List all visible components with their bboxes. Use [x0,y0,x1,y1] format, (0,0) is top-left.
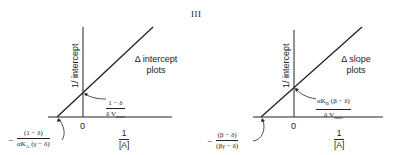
left-x-axis-den: [A] [119,141,129,150]
right-x-axis-label: 1 [A] [334,122,344,150]
left-x-intercept-den-tail: (γ − δ) [29,140,49,148]
right-x-intercept-arrow [253,120,264,141]
right-x-axis-den: [A] [334,141,344,150]
left-x-intercept-num: (1 − δ) [23,129,44,137]
right-x-intercept-num: (β − δ) [217,131,238,139]
left-x-axis-label: 1 [A] [119,122,129,150]
right-x-axis-num: 1 [336,129,343,138]
right-series-label-line2: plots [336,65,376,76]
figure-canvas: III 1/ intercept 0 1 [A] Δ intercept plo… [0,0,393,155]
right-x-intercept-sign: − [207,136,212,146]
right-x-intercept-label: − (β − δ) (βγ − δ) [207,131,238,150]
left-y-intercept-label: 1 − δ δ Vmax [106,91,125,121]
left-y-intercept-den: δ V [106,110,116,118]
left-series-label-line2: plots [131,65,181,76]
right-x-intercept-den: (βγ − δ) [216,142,238,150]
right-y-intercept-arrow [296,89,316,99]
left-y-intercept-den-sub: max [116,114,125,119]
left-y-intercept-num: 1 − δ [107,99,123,107]
left-y-intercept-arrow [85,94,106,99]
left-x-intercept-sign: − [8,135,13,145]
right-y-intercept-den-sub: max [334,116,343,121]
right-series-label-line1: Δ slope [336,54,376,65]
left-y-intercept-arrowhead [84,93,88,97]
right-x-intercept-arrowhead [261,118,265,122]
left-x-intercept-arrow [59,119,64,140]
left-y-axis-label: 1/ intercept [70,43,80,88]
right-series-label: Δ slope plots [336,54,376,76]
left-series-label: Δ intercept plots [131,54,181,76]
right-y-intercept-den: δ V [324,111,334,119]
right-y-intercept-num-tail: (β − δ) [329,97,350,105]
panel-label: III [191,9,202,19]
left-series-label-line1: Δ intercept [131,54,181,65]
right-y-axis-label: 1/ intercept [281,43,291,88]
left-x-axis-num: 1 [121,129,128,138]
right-origin-label: 0 [291,121,296,131]
left-origin-label: 0 [80,121,85,131]
right-y-intercept-num-pre: αK [317,97,326,105]
left-x-intercept-den: αK [17,140,26,148]
right-y-intercept-label: αKB (β − δ) δ Vmax [316,89,351,123]
left-x-intercept-label: − (1 − δ) αKA (γ − δ) [8,129,50,151]
